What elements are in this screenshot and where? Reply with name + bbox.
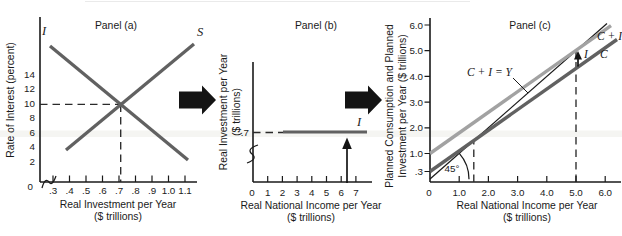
panel-b-investment-line-label: I [356,115,362,129]
panel-a-y-axis-label: Rate of Interest (percent) [5,42,16,158]
panel-c-angle-arc [459,153,469,179]
panel-c-x-axis-label-line2: ($ trillions) [503,212,551,223]
panel-b-x-tick: 2 [280,187,285,198]
panel-b-x-tick: 5 [324,187,330,198]
panel-b-x-tick: 7 [353,187,358,198]
panel-a-x-axis-label-line2: ($ trillions) [94,211,142,222]
panel-c-origin-label: 0 [426,187,432,198]
panel-c: Panel (c) 45° C + I = Y I C + I C 6.0 5.… [384,18,622,223]
three-panel-investment-figure: Panel (a) I S 14 12 10 8 6 4 2 0 .3 .4 .… [0,0,622,236]
panel-transition-arrow-icon [179,86,216,115]
panel-a-x-tick: .5 [82,185,91,196]
panel-b-y-tick: .7 [241,127,249,138]
panel-c-y-axis-label-line1: Planned Consumption and Planned [384,24,395,188]
panel-c-y-tick: 2.0 [409,122,423,133]
panel-c-y-tick: 4.0 [409,71,423,82]
panel-b-y-axis-label-line1: Real Investment per Year [218,53,229,170]
panel-c-x-tick: 6.0 [598,187,612,198]
panel-a-x-tick: .3 [49,185,58,196]
panel-c-y-tick: .3 [415,166,424,177]
panel-c-angle-label: 45° [445,163,460,174]
panel-c-x-tick: 5.0 [569,187,583,198]
panel-c-title: Panel (c) [509,20,551,31]
panel-c-y-tick: 1.0 [409,148,423,159]
panel-c-x-tick: 4.0 [540,187,554,198]
panel-b-x-axis-label-line2: ($ trillions) [287,212,335,223]
panel-c-x-tick-marks [459,176,605,182]
panel-a-y-tick: 10 [24,98,35,109]
panel-a-x-tick: .7 [115,185,123,196]
panel-c-y-tick-marks [425,25,431,172]
panel-a-x-tick: .4 [65,185,74,196]
panel-b-y-axis-label-line2: ($ trillions) [231,88,242,136]
panel-c-y-tick: 3.0 [409,97,423,108]
panel-c-c-plus-i-label: C + I [597,30,622,42]
panel-b-title: Panel (b) [295,20,337,31]
panel-a-y-tick: 12 [24,83,35,94]
panel-a-x-tick: 1.0 [162,185,176,196]
panel-a-y-tick: 14 [24,69,35,80]
panel-a-y-tick: 8 [30,112,36,123]
panel-b-x-tick: 6 [338,187,344,198]
panel-c-forty-five-line-label: C + I = Y [467,66,514,78]
panel-c-y-axis-label-line2: Investment per Year ($ trillions) [397,34,408,177]
panel-b-axis-break [247,145,258,163]
panel-b-x-tick: 3 [294,187,300,198]
panel-a-x-axis-label-line1: Real Investment per Year [60,199,177,210]
panel-a-y-tick: 6 [30,127,36,138]
panel-c-x-tick: 2.0 [482,187,496,198]
panel-a-saving-curve-label: S [197,25,204,39]
panel-c-consumption-label: C [600,48,608,60]
panel-a-origin-label: 0 [28,181,34,192]
panel-b-up-arrow-head-icon [342,138,352,150]
panel-c-consumption-line [430,40,617,172]
panel-c-x-tick: 1.0 [452,187,466,198]
panel-b-x-tick: 4 [309,187,315,198]
panel-b: Panel (b) I .7 0 1 2 3 4 5 6 7 Real Inve… [218,20,382,223]
panel-a-investment-curve-label: I [41,24,47,38]
panel-a: Panel (a) I S 14 12 10 8 6 4 2 0 .3 .4 .… [5,17,204,222]
panel-b-x-tick-marks [268,176,356,182]
panel-a-x-tick: 1.1 [178,185,192,196]
panel-a-y-tick: 4 [30,141,36,152]
panel-a-x-tick: .9 [148,185,156,196]
panel-a-x-tick-marks [53,176,185,183]
panel-a-x-tick: .6 [98,185,107,196]
panel-c-x-axis-label-line1: Real National Income per Year [457,200,598,211]
panel-c-y-tick: 5.0 [409,45,423,56]
panel-b-x-axis-label-line1: Real National Income per Year [241,200,382,211]
panel-c-y-tick: 6.0 [409,20,423,31]
panel-b-x-tick: 1 [265,187,270,198]
panel-b-origin-label: 0 [249,187,255,198]
panel-c-x-tick: 3.0 [511,187,525,198]
panel-a-investment-demand-curve [50,46,188,160]
panel-a-title: Panel (a) [95,20,137,31]
panel-a-y-tick: 2 [30,156,35,167]
panel-transition-arrow-icon [345,86,382,115]
panel-a-x-tick: .8 [131,185,140,196]
